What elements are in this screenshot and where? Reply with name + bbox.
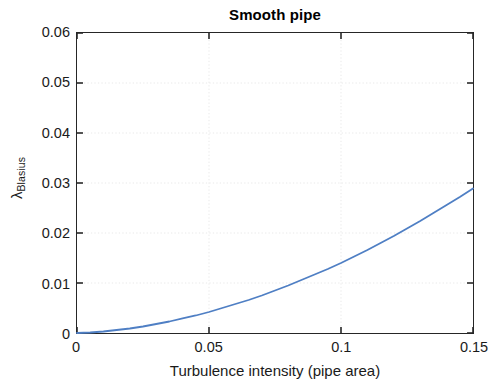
y-axis-title-wrapper: λBlasius [8, 27, 28, 329]
data-curve [77, 33, 473, 333]
plot-area [76, 32, 474, 334]
chart-figure: Smooth pipe 00.010.020.030.040.050.06 00… [0, 0, 491, 385]
x-tick-label: 0.05 [195, 340, 223, 354]
chart-title: Smooth pipe [76, 6, 474, 24]
y-axis-symbol: λ [8, 192, 25, 200]
y-axis-subscript: Blasius [15, 157, 27, 192]
x-tick-label: 0.1 [331, 340, 351, 354]
x-axis-title: Turbulence intensity (pipe area) [76, 362, 474, 379]
x-axis-tick-labels: 00.050.10.15 [76, 340, 474, 360]
y-tick-label: 0 [8, 327, 70, 341]
y-axis-title: λBlasius [8, 157, 25, 199]
x-tick-label: 0.15 [460, 340, 488, 354]
x-tick-label: 0 [72, 340, 80, 354]
